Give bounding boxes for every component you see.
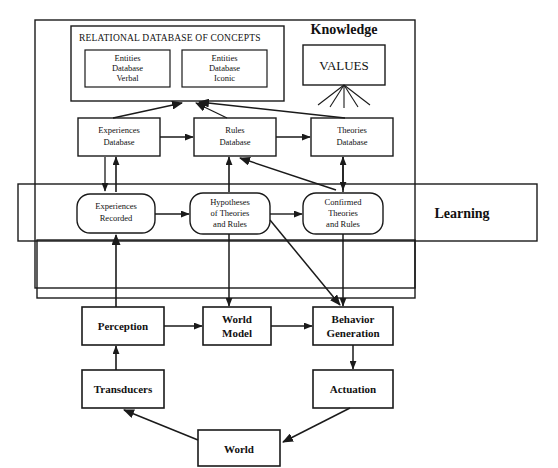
arrow-rules-db-to-concepts: [196, 103, 227, 118]
experiences-db-line1: Experiences: [98, 125, 140, 135]
diagram-svg: RELATIONAL DATABASE OF CONCEPTS Entities…: [0, 0, 558, 468]
hypotheses-line3: and Rules: [213, 219, 247, 229]
experiences-db-line2: Database: [103, 137, 134, 147]
actuation-label: Actuation: [330, 383, 376, 395]
hypotheses-line1: Hypotheses: [210, 197, 250, 207]
arrow-hypotheses-to-behavior-diagonal: [270, 220, 340, 305]
entities-iconic-line1: Entities: [212, 53, 238, 63]
experiences-recorded-line1: Experiences: [95, 201, 137, 211]
theories-db-line2: Database: [336, 137, 367, 147]
rules-db-line1: Rules: [225, 125, 244, 135]
relational-database-header: RELATIONAL DATABASE OF CONCEPTS: [79, 33, 261, 43]
perception-label: Perception: [98, 320, 149, 332]
world-label: World: [224, 443, 254, 455]
entities-verbal-line2: Database: [112, 63, 143, 73]
experiences-recorded-line2: Recorded: [100, 213, 133, 223]
arrow-confirmed-to-rules-db-diagonal: [240, 158, 336, 190]
world-model-line2: Model: [222, 327, 252, 339]
transducers-label: Transducers: [94, 383, 153, 395]
confirmed-line1: Confirmed: [325, 197, 363, 207]
values-label: VALUES: [319, 58, 369, 73]
learning-title: Learning: [434, 206, 489, 221]
theories-db-line1: Theories: [337, 125, 367, 135]
lower-region-box: [37, 240, 415, 298]
confirmed-line3: and Rules: [326, 219, 360, 229]
confirmed-line2: Theories: [328, 208, 358, 218]
rules-db-line2: Database: [219, 137, 250, 147]
values-radiating-lines: [318, 85, 370, 108]
arrow-experiences-db-to-concepts: [113, 103, 182, 118]
knowledge-title: Knowledge: [311, 22, 378, 37]
behavior-generation-line1: Behavior: [332, 313, 375, 325]
behavior-generation-line2: Generation: [326, 327, 379, 339]
arrow-actuation-to-world: [283, 408, 350, 442]
entities-iconic-line2: Database: [209, 63, 240, 73]
entities-verbal-line1: Entities: [115, 53, 141, 63]
hypotheses-line2: of Theories: [211, 208, 250, 218]
entities-iconic-line3: Iconic: [214, 73, 235, 83]
diagram-canvas: RELATIONAL DATABASE OF CONCEPTS Entities…: [0, 0, 558, 468]
arrow-world-to-transducers: [124, 410, 198, 440]
entities-verbal-line3: Verbal: [116, 73, 139, 83]
world-model-line1: World: [222, 313, 252, 325]
